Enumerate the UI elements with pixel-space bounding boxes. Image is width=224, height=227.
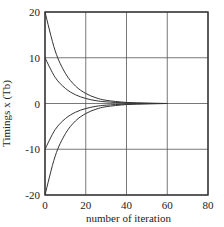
series-line xyxy=(45,58,167,104)
grid-lines xyxy=(45,12,208,195)
y-tick-label: 10 xyxy=(29,52,41,64)
x-tick-label: 40 xyxy=(121,199,133,211)
y-tick-label: 20 xyxy=(29,6,41,18)
convergence-chart: 020406080 -20-1001020 number of iteratio… xyxy=(0,0,224,227)
series-line xyxy=(45,104,167,150)
x-tick-label: 60 xyxy=(162,199,174,211)
y-tick-label: -20 xyxy=(25,189,40,201)
x-axis-label: number of iteration xyxy=(86,212,171,224)
x-tick-labels: 020406080 xyxy=(42,199,214,211)
y-tick-label: -10 xyxy=(25,143,40,155)
x-tick-label: 80 xyxy=(203,199,215,211)
y-axis-label: Timings x (Tb) xyxy=(0,80,13,147)
y-tick-label: 0 xyxy=(35,98,41,110)
x-tick-label: 0 xyxy=(42,199,48,211)
y-tick-labels: -20-1001020 xyxy=(25,6,40,201)
x-tick-label: 20 xyxy=(80,199,92,211)
